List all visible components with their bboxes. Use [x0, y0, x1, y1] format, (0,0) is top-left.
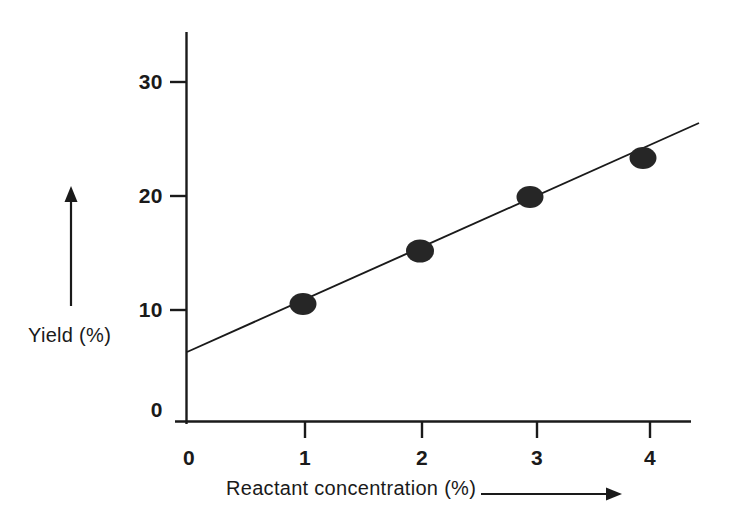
y-axis-title: Yield (%)	[28, 325, 111, 345]
x-tick-label-3: 3	[517, 447, 557, 468]
data-point-marker	[517, 186, 544, 208]
data-point-marker	[630, 147, 657, 169]
y-tick-label-20: 20	[117, 185, 163, 206]
x-axis-title: Reactant concentration (%)	[226, 478, 476, 498]
x-tick-label-0: 0	[169, 447, 209, 468]
x-tick-label-2: 2	[402, 447, 442, 468]
y-tick-label-10: 10	[117, 299, 163, 320]
y-tick-label-30: 30	[117, 71, 163, 92]
x-direction-arrow-icon	[481, 488, 622, 501]
y-direction-arrow-icon	[65, 186, 78, 306]
x-tick-label-4: 4	[630, 447, 670, 468]
trend-line	[187, 123, 699, 352]
y-tick-label-0: 0	[117, 399, 163, 420]
chart-canvas	[0, 0, 730, 527]
data-point-marker	[406, 240, 434, 263]
scatter-chart: 30 20 10 0 0 1 2 3 4 Yield (%) Reactant …	[0, 0, 730, 527]
x-tick-label-1: 1	[285, 447, 325, 468]
data-point-marker	[290, 293, 317, 315]
